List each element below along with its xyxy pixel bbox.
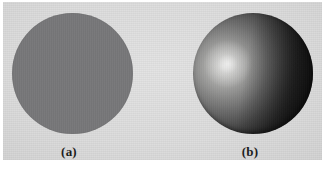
figure-root: (a) (b) (0, 0, 332, 170)
figure-panel (3, 2, 322, 160)
smooth-shaded-sphere-image (193, 13, 313, 134)
subfigure-caption-b: (b) (220, 144, 280, 160)
subfigure-caption-a: (a) (39, 144, 99, 160)
flat-shaded-sphere-image (12, 13, 133, 134)
